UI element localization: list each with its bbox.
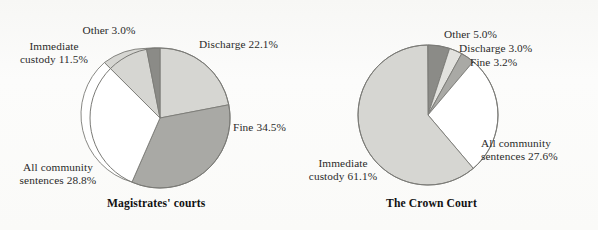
label-discharge-crown: Discharge 3.0% xyxy=(459,42,532,55)
label-all-community-crown-line1: All community xyxy=(481,137,551,150)
label-immediate-custody-magistrates-line2: custody 11.5% xyxy=(2,53,106,66)
label-other-crown: Other 5.0% xyxy=(444,28,497,41)
label-other-magistrates: Other 3.0% xyxy=(54,24,164,37)
label-discharge-magistrates: Discharge 22.1% xyxy=(199,38,278,51)
label-immediate-custody-crown-line1: Immediate xyxy=(295,157,391,170)
chart-panel-magistrates: Other 3.0% Immediate custody 11.5% Disch… xyxy=(0,0,299,230)
label-immediate-custody-crown-line2: custody 61.1% xyxy=(295,170,391,183)
label-all-community-magistrates-line1: All community xyxy=(2,161,114,174)
figure-sentencing-pie-charts: Other 3.0% Immediate custody 11.5% Disch… xyxy=(0,0,598,230)
chart-title-crown-court: The Crown Court xyxy=(386,197,477,210)
label-all-community-magistrates-line2: sentences 28.8% xyxy=(2,174,114,187)
chart-panel-crown-court: Other 5.0% Discharge 3.0% Fine 3.2% All … xyxy=(299,0,598,230)
label-fine-magistrates: Fine 34.5% xyxy=(233,121,286,134)
label-immediate-custody-magistrates-line1: Immediate xyxy=(2,40,106,53)
label-all-community-crown-line2: sentences 27.6% xyxy=(481,150,558,163)
chart-title-magistrates: Magistrates' courts xyxy=(107,197,205,210)
label-fine-crown: Fine 3.2% xyxy=(470,56,517,69)
